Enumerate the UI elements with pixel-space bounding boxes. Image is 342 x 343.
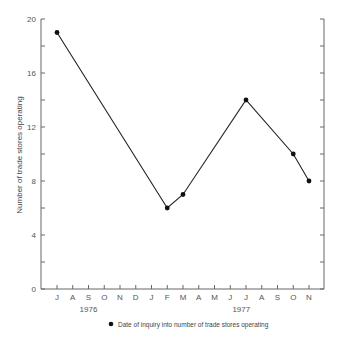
data-point-marker-icon <box>55 30 60 35</box>
legend-marker-icon <box>109 322 114 327</box>
y-tick-labels: 048121620 <box>27 15 36 294</box>
y-axis-label: Number of trade stores operating <box>15 96 24 213</box>
y-tick-label: 4 <box>32 231 37 240</box>
data-point-marker-icon <box>291 152 296 157</box>
series-line <box>57 33 309 209</box>
x-tick-label: A <box>259 293 265 302</box>
data-line <box>55 30 312 210</box>
legend-text: Date of inquiry into number of trade sto… <box>118 321 269 329</box>
x-tick-label: J <box>228 293 232 302</box>
x-tick-label: N <box>117 293 123 302</box>
y-tick-label: 12 <box>27 123 36 132</box>
x-tick-label: J <box>244 293 248 302</box>
data-point-marker-icon <box>244 98 249 103</box>
y-tick-label: 20 <box>27 15 36 24</box>
data-point-marker-icon <box>307 179 312 184</box>
y-tick-label: 0 <box>32 285 37 294</box>
x-tick-label: F <box>165 293 170 302</box>
x-tick-label: O <box>101 293 107 302</box>
year-label: 1977 <box>232 305 250 314</box>
x-tick-label: J <box>150 293 154 302</box>
x-tick-label: A <box>196 293 202 302</box>
year-labels: 19761977 <box>80 305 251 314</box>
data-point-marker-icon <box>165 206 170 211</box>
line-chart: 048121620 JASONDJFMAMJJASON 19761977 Num… <box>0 0 342 343</box>
legend: Date of inquiry into number of trade sto… <box>109 321 269 329</box>
x-tick-label: J <box>55 293 59 302</box>
left-axis <box>41 19 45 289</box>
y-tick-label: 16 <box>27 69 36 78</box>
x-tick-label: S <box>86 293 91 302</box>
x-tick-label: O <box>290 293 296 302</box>
right-axis <box>320 19 324 289</box>
x-tick-labels: JASONDJFMAMJJASON <box>55 293 312 302</box>
x-tick-label: S <box>275 293 280 302</box>
x-tick-label: M <box>211 293 218 302</box>
x-tick-label: N <box>306 293 312 302</box>
y-tick-label: 8 <box>32 177 37 186</box>
data-point-marker-icon <box>181 192 186 197</box>
x-tick-label: D <box>133 293 139 302</box>
bottom-axis <box>41 285 324 289</box>
year-label: 1976 <box>80 305 98 314</box>
x-tick-label: A <box>70 293 76 302</box>
x-tick-label: M <box>180 293 187 302</box>
